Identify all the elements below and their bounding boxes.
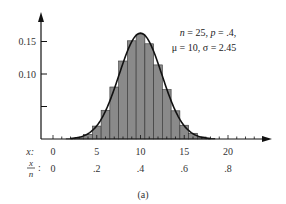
x-axis-arrow-icon [262,136,272,142]
histogram-bar [154,65,163,139]
x-over-n-denominator: n [29,169,34,179]
histogram-bar [127,41,136,139]
figure-caption: (a) [137,189,148,201]
y-ticks: 0.100.15 [19,36,48,107]
annotation: n = 25, p = .4, μ = 10, σ = 2.45 [172,27,237,53]
annotation-line2: μ = 10, σ = 2.45 [172,42,237,53]
x-over-n-tick-label: .8 [224,163,232,174]
y-tick-label: 0.15 [19,36,37,47]
x-over-n-colon: : [38,162,41,173]
x-over-n-tick-label: .4 [137,163,145,174]
x-over-n-tick-label: .6 [181,163,189,174]
x-over-n-tick-label: 0 [51,163,56,174]
x-tick-label: 10 [136,146,146,157]
x-tick-label: 5 [94,146,99,157]
y-tick-label: 0.10 [19,69,37,80]
x-label: x: [25,146,34,157]
histogram-chart: 0.100.15 005.210.415.620.8 n = 25, p = .… [0,0,286,204]
histogram-bar [136,34,145,139]
x-tick-label: 0 [51,146,56,157]
x-tick-label: 20 [223,146,233,157]
histogram-bar [171,111,180,139]
y-axis-arrow-icon [38,12,44,22]
histogram-bar [101,110,110,139]
histogram-bar [110,87,119,139]
x-over-n-numerator: x [28,158,33,168]
x-ticks: 005.210.415.620.8 [51,135,264,174]
x-over-n-tick-label: .2 [93,163,101,174]
annotation-line1: n = 25, p = .4, [180,27,236,38]
x-tick-label: 15 [179,146,189,157]
x-axis-labels: x: x n : [25,146,41,179]
histogram-bar [145,44,154,139]
